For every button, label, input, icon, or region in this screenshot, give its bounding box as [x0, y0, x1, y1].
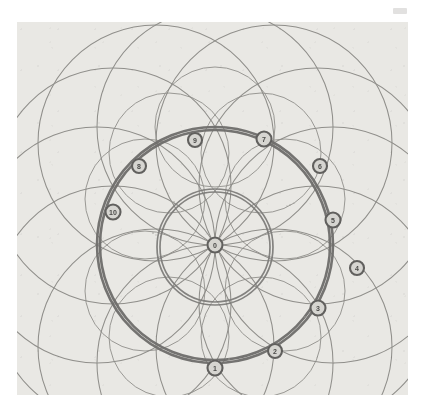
marker-center-label: 0	[213, 242, 217, 249]
marker-3-label: 3	[316, 305, 320, 312]
speck-7	[254, 285, 256, 287]
marker-1[interactable]: 1	[207, 360, 224, 377]
arc-circle-6	[156, 229, 392, 395]
speck-3	[289, 204, 291, 206]
spiral-arc-i	[109, 93, 229, 213]
marker-7-label: 7	[262, 136, 266, 143]
marker-9[interactable]: 9	[187, 132, 203, 148]
marker-3[interactable]: 3	[310, 300, 327, 317]
ink-layer: 012345679810	[17, 22, 408, 395]
speck-4	[293, 202, 295, 204]
speck-9	[304, 316, 306, 318]
marker-4[interactable]: 4	[349, 260, 365, 276]
spiral-arc-b	[201, 93, 321, 213]
diagram-plate: 012345679810	[17, 22, 408, 395]
speck-2	[176, 204, 178, 206]
speck-5	[152, 232, 154, 234]
marker-2[interactable]: 2	[267, 343, 283, 359]
marker-8-label: 8	[137, 163, 141, 170]
arc-circle-1	[97, 22, 333, 245]
speck-1	[173, 201, 175, 203]
figure-root: 012345679810	[0, 0, 431, 408]
marker-10[interactable]: 10	[105, 204, 122, 221]
spiral-arc-e	[201, 277, 321, 395]
faint-corner-mark	[393, 8, 407, 14]
arc-circle-4	[215, 127, 408, 363]
speck-8	[231, 301, 233, 303]
speck-6	[155, 234, 157, 236]
marker-9-label: 9	[193, 137, 197, 144]
marker-4-label: 4	[355, 265, 359, 272]
marker-8[interactable]: 8	[131, 158, 147, 174]
marker-center[interactable]: 0	[207, 237, 224, 254]
marker-7[interactable]: 7	[256, 131, 273, 148]
arc-circle-8	[38, 229, 274, 395]
marker-1-label: 1	[213, 365, 217, 372]
speck-11	[286, 205, 288, 207]
marker-6[interactable]: 6	[312, 158, 328, 174]
speck-10	[228, 358, 230, 360]
spiral-arc-f	[109, 277, 229, 395]
marker-5-label: 5	[331, 217, 335, 224]
arc-circle-group	[17, 22, 408, 395]
spiral-arc-group	[85, 67, 345, 395]
marker-10-label: 10	[109, 209, 117, 216]
marker-5[interactable]: 5	[325, 212, 342, 229]
arc-circle-9	[17, 186, 231, 395]
diagram-svg: 012345679810	[17, 22, 408, 395]
arc-circle-10	[17, 127, 215, 363]
marker-2-label: 2	[273, 348, 277, 355]
marker-6-label: 6	[318, 163, 322, 170]
